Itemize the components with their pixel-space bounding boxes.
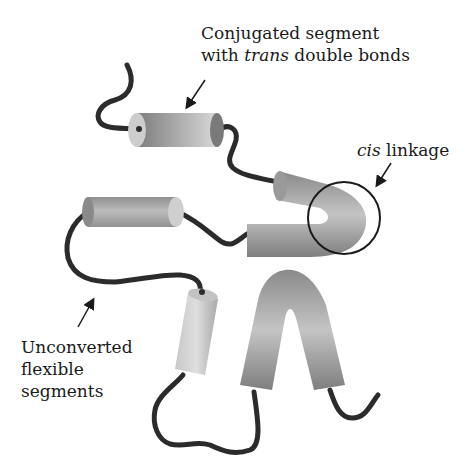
label-italic-cis: cis [357, 140, 381, 160]
label-conjugated-line1: Conjugated segment [201, 22, 379, 44]
chain-segment [154, 375, 258, 452]
chain-segment [330, 390, 378, 418]
label-unconverted-line1: Unconverted [21, 336, 133, 358]
bent-cylinder-v [240, 270, 345, 390]
label-italic-trans: trans [244, 45, 289, 65]
label-unconverted-line2: flexible [21, 358, 84, 380]
conjugated-cylinder-left [82, 197, 184, 227]
chain-segment [218, 127, 282, 183]
polymer-diagram [0, 0, 468, 476]
label-text: linkage [381, 140, 450, 160]
arrow-cis [377, 163, 391, 185]
label-cis-linkage: cis linkage [357, 139, 449, 161]
arrow-unconverted [78, 300, 93, 327]
label-conjugated-line2: with trans double bonds [201, 44, 410, 66]
label-text: double bonds [289, 45, 410, 65]
label-unconverted-line3: segments [21, 380, 103, 402]
conjugated-cylinder-vertical [175, 286, 219, 375]
bent-cylinder-cis [247, 171, 366, 257]
arrow-conjugated [187, 80, 205, 107]
conjugated-cylinder-top [128, 113, 224, 147]
label-text: with [201, 45, 244, 65]
chain-segment [178, 212, 247, 244]
